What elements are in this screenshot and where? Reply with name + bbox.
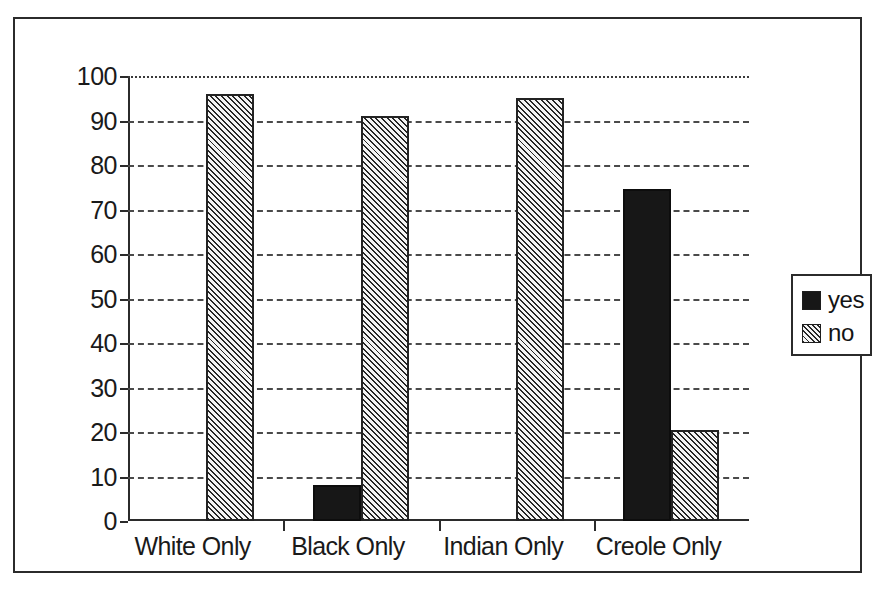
y-axis-tick: [120, 343, 128, 345]
legend-label-yes: yes: [828, 288, 864, 312]
y-axis-tick-label: 20: [90, 418, 117, 447]
bar-indian-only-no: [516, 98, 564, 521]
category-separator-tick: [594, 521, 596, 531]
legend-swatch-no-icon: [802, 324, 821, 343]
legend-item-no: no: [802, 318, 870, 348]
legend-label-no: no: [828, 321, 854, 345]
y-axis-tick-label: 100: [77, 62, 117, 91]
outer-frame-border: 0102030405060708090100 White OnlyBlack O…: [13, 17, 862, 573]
y-axis-tick-label: 40: [90, 329, 117, 358]
y-axis-tick-label: 50: [90, 284, 117, 313]
bar-black-only-yes: [313, 485, 361, 521]
category-label-creole-only: Creole Only: [581, 532, 736, 561]
chart-screenshot: 0102030405060708090100 White OnlyBlack O…: [0, 0, 875, 590]
y-axis-tick-label: 30: [90, 373, 117, 402]
category-label-white-only: White Only: [115, 532, 270, 561]
y-axis-tick: [120, 165, 128, 167]
bar-creole-only-no: [671, 430, 719, 521]
y-axis-tick: [120, 388, 128, 390]
chart-legend: yes no: [791, 274, 872, 356]
y-axis-tick: [120, 210, 128, 212]
y-axis-tick-label: 90: [90, 106, 117, 135]
legend-item-yes: yes: [802, 285, 870, 315]
bar-creole-only-yes: [623, 189, 671, 521]
y-axis-tick: [120, 521, 128, 523]
y-axis-tick: [120, 254, 128, 256]
y-axis-tick: [120, 432, 128, 434]
gridline-top: [128, 76, 749, 78]
category-separator-tick: [439, 521, 441, 531]
y-axis-tick: [120, 477, 128, 479]
y-axis-tick: [120, 299, 128, 301]
y-axis-tick-label: 70: [90, 195, 117, 224]
y-axis-tick-label: 80: [90, 151, 117, 180]
y-axis-tick: [120, 76, 128, 78]
category-label-indian-only: Indian Only: [426, 532, 581, 561]
y-axis-tick-label: 10: [90, 462, 117, 491]
plot-area: 0102030405060708090100: [128, 76, 749, 521]
bar-white-only-no: [206, 94, 254, 521]
legend-swatch-yes-icon: [802, 291, 821, 310]
category-label-black-only: Black Only: [270, 532, 425, 561]
y-axis-tick-label: 60: [90, 240, 117, 269]
bar-black-only-no: [361, 116, 409, 521]
y-axis-tick: [120, 121, 128, 123]
category-separator-tick: [283, 521, 285, 531]
